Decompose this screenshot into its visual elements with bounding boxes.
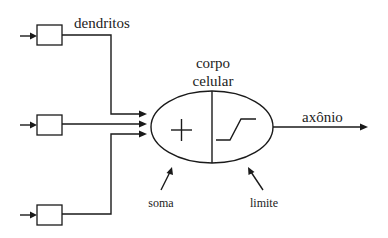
input-3: [20, 131, 147, 226]
cell-body-label-line2: celular: [193, 73, 234, 89]
axon-label: axônio: [302, 109, 343, 125]
input-3-arrowhead-icon: [30, 212, 37, 219]
input-2-weight-box: [37, 115, 62, 135]
dendrite-1-line: [62, 35, 140, 114]
dendrite-2-arrowhead-icon: [139, 121, 147, 128]
dendrites-label: dendritos: [74, 15, 130, 31]
threshold-step-icon: [216, 119, 256, 140]
input-2: [20, 115, 147, 135]
soma-pointer-line: [161, 172, 170, 190]
limite-pointer-arrowhead-icon: [248, 167, 255, 175]
sum-label: soma: [148, 196, 174, 210]
input-3-weight-box: [37, 205, 62, 225]
dendrite-1-arrowhead-icon: [139, 111, 147, 118]
dendrite-3-line: [62, 134, 140, 214]
dendrite-3-arrowhead-icon: [139, 131, 147, 138]
soma-pointer: [161, 167, 173, 190]
threshold-label: limite: [250, 196, 278, 210]
sum-plus-icon: [171, 119, 192, 141]
input-1-weight-box: [37, 25, 62, 45]
axon-arrowhead-icon: [360, 124, 368, 131]
limite-pointer-line: [251, 172, 263, 190]
cell-body: [151, 91, 273, 163]
neuron-diagram: dendritos corpo celular axônio soma limi…: [0, 0, 388, 238]
cell-body-label-line1: corpo: [196, 55, 230, 71]
limite-pointer: [248, 167, 263, 190]
input-1: [20, 25, 147, 118]
input-2-arrowhead-icon: [30, 122, 37, 129]
soma-pointer-arrowhead-icon: [167, 167, 174, 175]
input-1-arrowhead-icon: [30, 33, 37, 40]
